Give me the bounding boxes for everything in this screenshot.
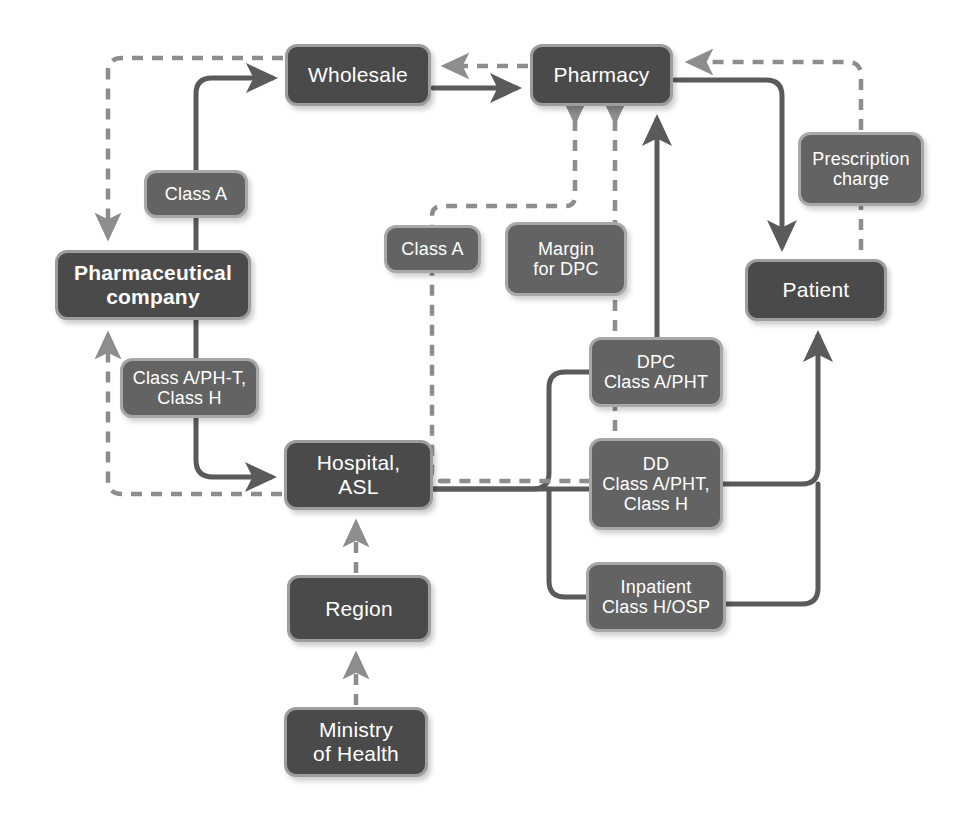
node-prescription[interactable]: Prescription charge — [798, 132, 924, 206]
solid-edges-group — [196, 78, 818, 604]
node-inpatient[interactable]: Inpatient Class H/OSP — [586, 562, 726, 632]
node-dpc[interactable]: DPC Class A/PHT — [589, 337, 723, 407]
edge-hospital-classa-route — [422, 120, 575, 481]
edge-hospital-to-dpc — [434, 372, 589, 489]
node-label: Ministry of Health — [313, 718, 399, 765]
edge-inpatient-to-patient — [726, 484, 818, 604]
edge-pharma-to-wholesale — [196, 78, 272, 250]
node-label: Margin for DPC — [533, 239, 598, 279]
node-label: Class A — [165, 184, 227, 204]
node-label: Patient — [783, 278, 850, 302]
node-label: Inpatient Class H/OSP — [602, 577, 710, 617]
node-label: DPC Class A/PHT — [604, 352, 708, 392]
node-label: DD Class A/PHT, Class H — [602, 454, 709, 514]
node-pharmacy[interactable]: Pharmacy — [530, 44, 673, 106]
node-label: Class A — [401, 239, 463, 259]
edge-hospital-to-pharmacy-margin — [449, 120, 615, 481]
node-label: Pharmacy — [553, 63, 649, 87]
node-label: Wholesale — [308, 63, 408, 87]
node-class-a-left[interactable]: Class A — [144, 170, 248, 218]
node-margin-dpc[interactable]: Margin for DPC — [505, 222, 627, 296]
edge-dd-to-patient — [723, 336, 818, 484]
node-label: Region — [325, 597, 393, 621]
node-label: Pharmaceutical company — [74, 261, 232, 308]
node-wholesale[interactable]: Wholesale — [285, 44, 431, 106]
edge-pharmacy-to-patient — [675, 80, 782, 246]
node-label: Hospital, ASL — [317, 451, 401, 498]
node-patient[interactable]: Patient — [745, 259, 887, 321]
node-class-a-mid[interactable]: Class A — [384, 225, 481, 273]
node-ministry[interactable]: Ministry of Health — [284, 707, 428, 777]
node-dd[interactable]: DD Class A/PHT, Class H — [589, 438, 723, 530]
node-class-a-ph-t[interactable]: Class A/PH-T, Class H — [120, 358, 259, 418]
node-label: Class A/PH-T, Class H — [133, 368, 247, 408]
diagram-canvas: WholesalePharmacyClass APharmaceutical c… — [0, 0, 980, 818]
node-hospital-asl[interactable]: Hospital, ASL — [284, 440, 433, 510]
node-label: Prescription charge — [812, 149, 909, 189]
node-pharma-co[interactable]: Pharmaceutical company — [55, 250, 251, 320]
edge-hospital-to-inpatient — [549, 489, 586, 597]
node-region[interactable]: Region — [287, 575, 431, 642]
